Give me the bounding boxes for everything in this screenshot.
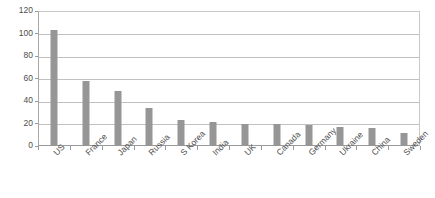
bar[interactable]: [114, 91, 121, 146]
x-tick-mark: [165, 146, 166, 150]
bar[interactable]: [178, 120, 185, 146]
y-tick-label: 0: [28, 141, 33, 150]
y-tick-label: 20: [24, 119, 33, 128]
bar-chart: 020406080100120 USFranceJapanRussiaS Kor…: [0, 0, 435, 198]
x-tick-mark: [293, 146, 294, 150]
x-tick-mark: [325, 146, 326, 150]
bar-slot: [38, 11, 70, 146]
x-tick-mark: [356, 146, 357, 150]
bar-slot: [261, 11, 293, 146]
x-tick-mark: [70, 146, 71, 150]
x-tick-mark: [197, 146, 198, 150]
x-tick-mark: [38, 146, 39, 150]
y-tick-label: 100: [19, 29, 33, 38]
y-tick-label: 40: [24, 96, 33, 105]
bar[interactable]: [82, 81, 89, 146]
x-tick-mark: [388, 146, 389, 150]
x-tick-mark: [261, 146, 262, 150]
bar-slot: [102, 11, 134, 146]
bar[interactable]: [241, 124, 248, 147]
x-tick-mark: [134, 146, 135, 150]
x-tick-mark: [229, 146, 230, 150]
x-tick-mark: [102, 146, 103, 150]
bar[interactable]: [273, 124, 280, 147]
x-tick-mark: [420, 146, 421, 150]
y-tick-label: 120: [19, 6, 33, 15]
bar[interactable]: [210, 122, 217, 146]
bar-slot: [293, 11, 325, 146]
bars-layer: [38, 11, 420, 146]
bar-slot: [134, 11, 166, 146]
bar[interactable]: [305, 125, 312, 146]
bar[interactable]: [50, 30, 57, 146]
y-tick-label: 80: [24, 51, 33, 60]
bar-slot: [356, 11, 388, 146]
bar-slot: [229, 11, 261, 146]
bar-slot: [165, 11, 197, 146]
y-tick-label: 60: [24, 74, 33, 83]
bar-slot: [70, 11, 102, 146]
bar[interactable]: [146, 108, 153, 146]
bar-slot: [197, 11, 229, 146]
bar-slot: [388, 11, 420, 146]
